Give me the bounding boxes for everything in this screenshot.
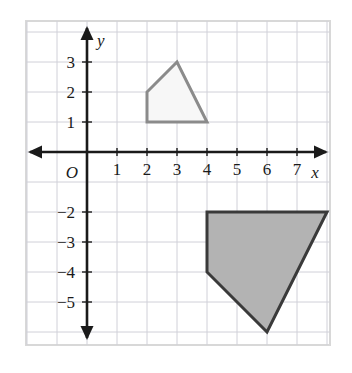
x-axis-label: x xyxy=(310,163,319,182)
x-axis-tick-label: 5 xyxy=(233,160,242,179)
y-axis-tick-label: −5 xyxy=(57,293,75,312)
x-axis-tick-label: 1 xyxy=(113,160,122,179)
y-axis-tick-label: −3 xyxy=(57,233,75,252)
x-axis-tick-label: 4 xyxy=(203,160,212,179)
coordinate-plane-svg: 1234567 321−2−3−4−5 y x O xyxy=(0,0,352,373)
y-axis-tick-label: −4 xyxy=(57,263,76,282)
y-axis-tick-label: 1 xyxy=(67,113,76,132)
origin-label: O xyxy=(66,163,78,182)
y-axis-label: y xyxy=(95,31,105,50)
y-axis-tick-label: 3 xyxy=(67,53,76,72)
y-axis-tick-label: 2 xyxy=(67,83,76,102)
x-axis-tick-label: 2 xyxy=(143,160,152,179)
x-axis-tick-label: 7 xyxy=(293,160,302,179)
x-axis-tick-label: 3 xyxy=(173,160,182,179)
x-axis-tick-label: 6 xyxy=(263,160,272,179)
coordinate-plane-figure: 1234567 321−2−3−4−5 y x O xyxy=(0,0,352,373)
y-axis-tick-label: −2 xyxy=(57,203,75,222)
